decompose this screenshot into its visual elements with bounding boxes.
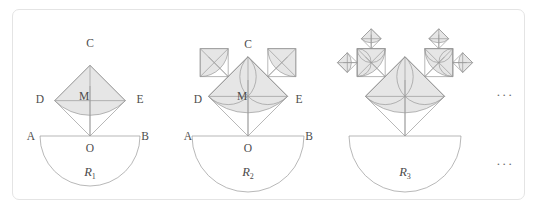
point-label-e: E <box>295 93 302 105</box>
fractal-figure-diagram: ABOCDEMR1ABOCDEMR2R3······ <box>0 0 539 212</box>
figure-caption: R2 <box>241 165 254 181</box>
point-label-c: C <box>86 37 94 49</box>
point-label-c: C <box>244 38 252 50</box>
figure-caption-subscript: 3 <box>407 172 411 181</box>
ellipsis-lower: ··· <box>496 156 514 171</box>
point-label-d: D <box>194 93 202 105</box>
ellipsis-upper: ··· <box>496 87 514 102</box>
figure-caption: R1 <box>83 165 96 181</box>
figure-caption: R3 <box>398 165 411 181</box>
figure-panel: ABOCDEMR1ABOCDEMR2R3······ <box>0 0 539 212</box>
point-label-b: B <box>305 130 313 142</box>
figure-caption-subscript: 2 <box>250 172 254 181</box>
point-label-a: A <box>27 130 36 142</box>
point-label-e: E <box>136 93 143 105</box>
point-label-a: A <box>184 130 193 142</box>
point-label-m: M <box>237 90 247 102</box>
point-label-o: O <box>244 142 252 154</box>
point-label-b: B <box>141 130 149 142</box>
figure-group <box>40 29 473 192</box>
point-label-d: D <box>36 93 44 105</box>
point-label-m: M <box>79 90 89 102</box>
point-label-o: O <box>86 142 94 154</box>
semicircle-arc <box>349 136 461 192</box>
figure-caption-subscript: 1 <box>92 172 96 181</box>
